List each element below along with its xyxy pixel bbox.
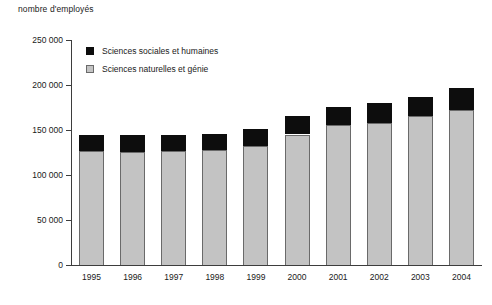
bar-segment-naturelles[interactable] [79,151,104,265]
y-tick-mark [66,220,71,221]
y-axis-title: nombre d'employés [18,4,94,14]
bar-group[interactable] [449,40,474,265]
bar-segment-naturelles[interactable] [161,151,186,265]
bar-segment-sociales[interactable] [326,107,351,125]
legend-item-natural[interactable]: Sciences naturelles et génie [86,62,218,76]
y-tick-label: 250 000 [32,35,63,45]
bar-segment-sociales[interactable] [79,135,104,151]
bar-group[interactable] [408,40,433,265]
stacked-bar-chart: nombre d'employés 050 000100 000150 0002… [0,0,492,305]
bar-segment-naturelles[interactable] [285,135,310,266]
legend-swatch-social-icon [86,47,94,55]
bar-segment-sociales[interactable] [285,116,310,135]
bar-segment-naturelles[interactable] [326,125,351,265]
bar-segment-sociales[interactable] [120,135,145,152]
chart-legend: Sciences sociales et humaines Sciences n… [86,44,218,80]
bar-group[interactable] [243,40,268,265]
y-tick-mark [66,130,71,131]
y-tick-label: 150 000 [32,125,63,135]
bar-segment-naturelles[interactable] [367,123,392,265]
bar-segment-sociales[interactable] [243,129,268,146]
bar-segment-naturelles[interactable] [120,152,145,265]
y-tick-mark [66,85,71,86]
legend-swatch-natural-icon [86,65,94,73]
y-tick-mark [66,175,71,176]
bar-segment-sociales[interactable] [449,88,474,111]
y-tick-mark [66,40,71,41]
bar-group[interactable] [326,40,351,265]
bar-segment-naturelles[interactable] [243,146,268,265]
bar-group[interactable] [285,40,310,265]
y-tick-label: 200 000 [32,80,63,90]
y-tick-label: 50 000 [37,215,63,225]
bar-segment-naturelles[interactable] [408,116,433,265]
bar-segment-sociales[interactable] [202,134,227,150]
legend-label-natural: Sciences naturelles et génie [102,64,208,74]
bar-segment-naturelles[interactable] [449,110,474,265]
bar-segment-sociales[interactable] [408,97,433,116]
bar-segment-sociales[interactable] [367,103,392,123]
x-axis-line [71,265,482,266]
y-tick-label: 0 [58,260,63,270]
y-tick-label: 100 000 [32,170,63,180]
bar-segment-sociales[interactable] [161,135,186,151]
legend-label-social: Sciences sociales et humaines [102,46,218,56]
bar-segment-naturelles[interactable] [202,150,227,265]
legend-item-social[interactable]: Sciences sociales et humaines [86,44,218,58]
bar-group[interactable] [367,40,392,265]
y-axis-line [71,40,72,266]
x-tick-label: 2004 [431,272,491,282]
y-tick-mark [66,265,71,266]
